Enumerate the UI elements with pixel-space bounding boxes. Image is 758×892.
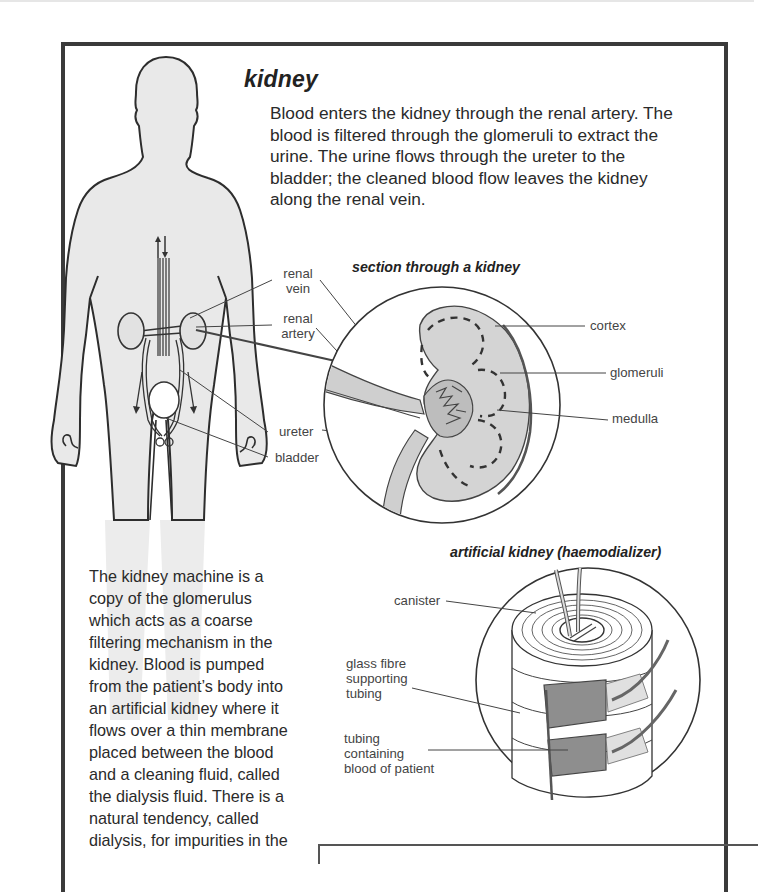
paragraph-line: an artificial kidney where it — [89, 697, 319, 719]
label-cortex: cortex — [590, 318, 626, 333]
label-text: glass fibre — [346, 656, 408, 671]
paragraph-line: the dialysis fluid. There is a — [89, 785, 319, 807]
kidney-machine-paragraph: The kidney machine is a copy of the glom… — [89, 565, 319, 851]
paragraph-line: flows over a thin membrane — [89, 719, 319, 741]
label-glass-fibre: glass fibre supporting tubing — [346, 656, 408, 701]
intro-line: Blood enters the kidney through the rena… — [270, 103, 710, 125]
label-canister: canister — [394, 593, 440, 608]
label-text: renal — [278, 266, 318, 281]
label-renal-vein: renal vein — [278, 266, 318, 296]
paragraph-line: placed between the blood — [89, 741, 319, 763]
label-ureter: ureter — [279, 424, 313, 439]
paragraph-line: The kidney machine is a — [89, 565, 319, 587]
paragraph-line: copy of the glomerulus — [89, 587, 319, 609]
page-title: kidney — [244, 66, 318, 93]
paragraph-line: filtering mechanism in the — [89, 631, 319, 653]
intro-line: bladder; the cleaned blood flow leaves t… — [270, 168, 710, 190]
paragraph-line: from the patient’s body into — [89, 675, 319, 697]
label-bladder: bladder — [275, 450, 319, 465]
section-title: section through a kidney — [352, 259, 520, 275]
haemodializer-icon — [412, 568, 700, 800]
dialyzer-title: artificial kidney (haemodializer) — [450, 544, 661, 560]
intro-line: along the renal vein. — [270, 189, 710, 211]
label-tubing-blood: tubing containing blood of patient — [344, 731, 434, 776]
label-text: tubing — [344, 731, 434, 746]
paragraph-line: natural tendency, called — [89, 807, 319, 829]
paragraph-line: which acts as a coarse — [89, 609, 319, 631]
label-medulla: medulla — [612, 411, 658, 426]
kidney-cross-section-icon — [320, 287, 608, 523]
label-text: vein — [278, 281, 318, 296]
label-text: artery — [278, 326, 318, 341]
intro-line: urine. The urine flows through the urete… — [270, 146, 710, 168]
label-text: supporting — [346, 671, 408, 686]
paragraph-line: and a cleaning fluid, called — [89, 763, 319, 785]
label-glomeruli: glomeruli — [610, 365, 664, 380]
label-text: containing — [344, 746, 434, 761]
label-text: tubing — [346, 686, 408, 701]
intro-line: blood is filtered through the glomeruli … — [270, 125, 710, 147]
label-text: blood of patient — [344, 761, 434, 776]
intro-paragraph: Blood enters the kidney through the rena… — [270, 103, 710, 211]
label-renal-artery: renal artery — [278, 311, 318, 341]
paragraph-line: dialysis, for impurities in the — [89, 829, 319, 851]
label-text: renal — [278, 311, 318, 326]
paragraph-line: kidney. Blood is pumped — [89, 653, 319, 675]
